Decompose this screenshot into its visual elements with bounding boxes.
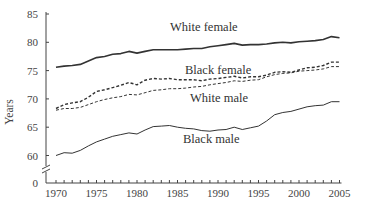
series-line-black-male (56, 102, 340, 156)
x-tick-label: 1990 (207, 187, 230, 199)
series-labels: White femaleBlack femaleWhite maleBlack … (170, 20, 252, 146)
y-axis-title: Years (3, 99, 15, 125)
series-label-white-female: White female (170, 20, 238, 34)
x-tick-label: 2000 (288, 187, 311, 199)
x-tick-label: 1970 (45, 187, 68, 199)
x-axis: 19701975198019851990199520002005 (45, 180, 351, 199)
series-label-white-male: White male (190, 91, 248, 105)
series-label-black-male: Black male (183, 132, 240, 146)
x-tick-label: 1980 (126, 187, 149, 199)
series-label-black-female: Black female (185, 63, 252, 77)
y-axis: 0606570758085 (27, 8, 50, 189)
y-tick-label: 65 (27, 121, 39, 133)
y-tick-label: 80 (27, 36, 39, 48)
y-tick-label: 60 (27, 150, 39, 162)
y-tick-label: 75 (27, 65, 39, 77)
y-tick-label: 70 (27, 93, 39, 105)
life-expectancy-chart: 0606570758085 19701975198019851990199520… (0, 0, 369, 211)
x-tick-label: 1975 (86, 187, 109, 199)
y-tick-label: 0 (33, 177, 39, 189)
x-tick-label: 1995 (248, 187, 271, 199)
y-tick-label: 85 (27, 8, 39, 20)
x-tick-label: 1985 (167, 187, 190, 199)
x-tick-label: 2005 (329, 187, 352, 199)
